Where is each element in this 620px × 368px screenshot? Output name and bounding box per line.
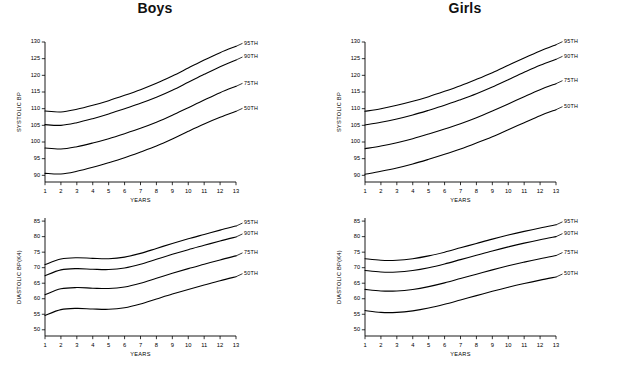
panel-girls-systolic: Girls 9095100105110115120125130123456789… — [310, 0, 620, 200]
percentile-label-50th: 50TH — [564, 103, 578, 109]
percentile-label-75th: 75TH — [564, 249, 578, 255]
y-tick-label-90: 90 — [354, 172, 360, 178]
percentile-label-75th: 75TH — [564, 77, 578, 83]
percentile-label-50th: 50TH — [244, 105, 258, 111]
x-tick-label-10: 10 — [185, 188, 191, 194]
y-tick-label-95: 95 — [354, 155, 360, 161]
percentile-label-90th: 90TH — [244, 230, 258, 236]
x-tick-label-10: 10 — [185, 342, 191, 348]
y-tick-label-50: 50 — [34, 326, 40, 332]
x-axis-title: YEARS — [450, 351, 470, 357]
percentile-label-90th: 90TH — [564, 230, 578, 236]
x-tick-label-2: 2 — [59, 188, 62, 194]
x-tick-label-13: 13 — [553, 188, 559, 194]
x-tick-label-2: 2 — [379, 188, 382, 194]
x-tick-label-4: 4 — [411, 342, 415, 348]
curve-leader-75th — [236, 83, 243, 86]
curve-leader-90th — [556, 234, 563, 237]
curve-boys-systolic-95th — [45, 46, 236, 112]
chart-svg-girls-systolic: 9095100105110115120125130123456789101112… — [310, 0, 620, 200]
y-tick-label-75: 75 — [34, 249, 40, 255]
y-tick-label-105: 105 — [31, 122, 40, 128]
curve-girls-systolic-95th — [365, 45, 556, 112]
x-tick-label-9: 9 — [491, 188, 494, 194]
axis-spine — [365, 218, 556, 336]
curve-boys-diastolic-50th — [45, 277, 236, 316]
y-axis-title: DIASTOLIC BP(K4) — [336, 250, 342, 304]
x-axis-title: YEARS — [130, 351, 150, 357]
x-tick-label-12: 12 — [217, 188, 223, 194]
x-tick-label-8: 8 — [475, 342, 478, 348]
curve-boys-diastolic-90th — [45, 237, 236, 276]
bp-percentile-figure: Boys 90951001051101151201251301234567891… — [0, 0, 620, 368]
y-tick-label-105: 105 — [351, 122, 360, 128]
x-tick-label-11: 11 — [201, 188, 207, 194]
y-tick-label-95: 95 — [34, 155, 40, 161]
curve-leader-90th — [556, 56, 563, 59]
x-tick-label-9: 9 — [171, 342, 174, 348]
x-tick-label-7: 7 — [459, 188, 462, 194]
y-tick-label-85: 85 — [34, 218, 40, 224]
curve-leader-95th — [236, 223, 243, 226]
y-tick-label-55: 55 — [34, 311, 40, 317]
axis-spine — [365, 42, 556, 182]
x-tick-label-2: 2 — [379, 342, 382, 348]
y-axis-title: SYSTOLIC BP — [336, 92, 342, 132]
y-tick-label-110: 110 — [31, 105, 40, 111]
y-tick-label-130: 130 — [351, 38, 360, 44]
y-tick-label-65: 65 — [34, 280, 40, 286]
curve-boys-systolic-90th — [45, 60, 236, 125]
x-tick-label-6: 6 — [443, 342, 446, 348]
curve-leader-75th — [556, 253, 563, 256]
y-tick-label-80: 80 — [354, 233, 360, 239]
curve-boys-systolic-50th — [45, 111, 236, 174]
x-tick-label-4: 4 — [411, 188, 415, 194]
y-tick-label-85: 85 — [354, 218, 360, 224]
curve-girls-systolic-75th — [365, 84, 556, 149]
y-tick-label-100: 100 — [31, 138, 40, 144]
x-tick-label-6: 6 — [123, 342, 126, 348]
curve-leader-95th — [556, 222, 563, 225]
y-tick-label-125: 125 — [351, 55, 360, 61]
x-tick-label-5: 5 — [107, 188, 110, 194]
curve-girls-diastolic-75th — [365, 256, 556, 292]
y-tick-label-55: 55 — [354, 311, 360, 317]
x-tick-label-11: 11 — [521, 342, 527, 348]
curve-boys-diastolic-95th — [45, 226, 236, 265]
curve-girls-diastolic-50th — [365, 277, 556, 313]
curve-leader-75th — [556, 81, 563, 84]
y-tick-label-130: 130 — [31, 38, 40, 44]
curve-leader-95th — [236, 43, 243, 46]
y-tick-label-90: 90 — [34, 172, 40, 178]
curve-leader-50th — [236, 108, 243, 111]
y-tick-label-115: 115 — [351, 88, 360, 94]
x-tick-label-13: 13 — [233, 342, 239, 348]
panel-title-girls: Girls — [310, 0, 620, 16]
y-tick-label-120: 120 — [31, 72, 40, 78]
percentile-label-50th: 50TH — [244, 270, 258, 276]
panel-boys-diastolic: 505560657075808512345678910111213YEARSDI… — [0, 200, 310, 368]
x-tick-label-13: 13 — [553, 342, 559, 348]
y-tick-label-50: 50 — [354, 326, 360, 332]
x-tick-label-4: 4 — [91, 188, 95, 194]
curve-girls-diastolic-90th — [365, 237, 556, 273]
x-tick-label-6: 6 — [123, 188, 126, 194]
x-tick-label-4: 4 — [91, 342, 95, 348]
x-tick-label-7: 7 — [459, 342, 462, 348]
y-tick-label-65: 65 — [354, 280, 360, 286]
y-tick-label-115: 115 — [31, 88, 40, 94]
panel-girls-diastolic: 505560657075808512345678910111213YEARSDI… — [310, 200, 620, 368]
y-tick-label-75: 75 — [354, 249, 360, 255]
x-tick-label-3: 3 — [395, 188, 398, 194]
y-tick-label-60: 60 — [354, 295, 360, 301]
curve-leader-95th — [556, 42, 563, 45]
panel-boys-systolic: Boys 90951001051101151201251301234567891… — [0, 0, 310, 200]
x-tick-label-13: 13 — [233, 188, 239, 194]
curve-leader-50th — [556, 274, 563, 277]
percentile-label-95th: 95TH — [564, 218, 578, 224]
percentile-label-75th: 75TH — [244, 249, 258, 255]
y-tick-label-110: 110 — [351, 105, 360, 111]
y-tick-label-125: 125 — [31, 55, 40, 61]
x-tick-label-8: 8 — [155, 188, 158, 194]
percentile-label-95th: 95TH — [244, 219, 258, 225]
